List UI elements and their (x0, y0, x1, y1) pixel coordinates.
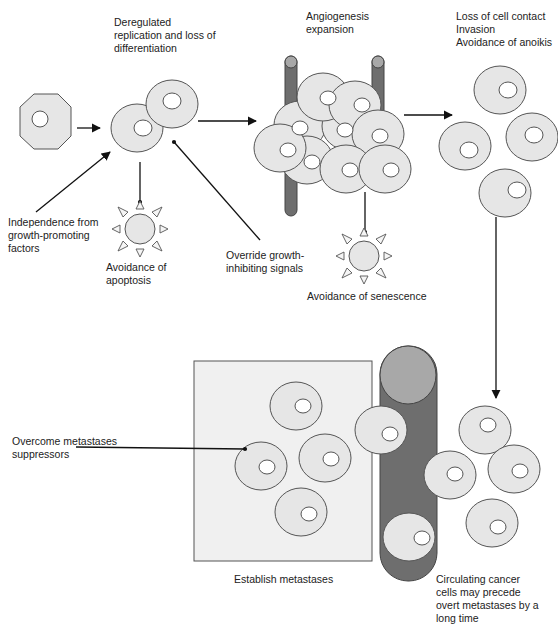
label-apoptosis: Avoidance of apoptosis (106, 261, 167, 287)
normal-cell-icon (20, 94, 71, 149)
diagram-canvas (0, 0, 558, 631)
label-suppressors: Overcome metastases suppressors (12, 435, 117, 461)
tumor-cluster-icon (254, 56, 411, 216)
deregulated-cells-icon (111, 80, 198, 152)
label-deregulated: Deregulated replication and loss of diff… (114, 16, 216, 55)
label-angiogenesis: Angiogenesis expansion (306, 10, 369, 36)
label-independence: Independence from growth-promoting facto… (8, 216, 98, 255)
label-establish: Establish metastases (234, 573, 333, 586)
apoptosis-sun-icon (112, 201, 168, 257)
invasive-cells-icon (439, 66, 558, 217)
senescence-sun-icon (336, 228, 392, 284)
arrow-independence (36, 152, 110, 212)
label-override: Override growth- inhibiting signals (226, 249, 304, 275)
label-loss-contact: Loss of cell contact Invasion Avoidance … (456, 10, 552, 49)
label-senescence: Avoidance of senescence (307, 290, 426, 303)
label-circulating: Circulating cancer cells may precede ove… (436, 573, 539, 625)
arrow-override (174, 142, 260, 240)
